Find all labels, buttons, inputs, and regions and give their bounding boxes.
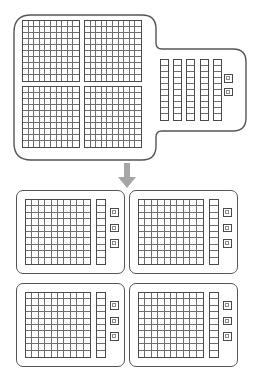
hundred-flat xyxy=(25,292,91,358)
rod-cell xyxy=(97,258,105,264)
rod-cell xyxy=(214,114,221,120)
one-unit xyxy=(224,74,233,83)
one-unit xyxy=(110,301,119,310)
flat-cell xyxy=(73,141,79,147)
ten-rod xyxy=(160,59,169,121)
group-box xyxy=(16,283,125,367)
flat-cell xyxy=(197,351,203,357)
hundred-flat xyxy=(138,199,204,265)
ten-rod xyxy=(209,199,219,265)
ten-rod xyxy=(209,292,219,358)
one-unit xyxy=(223,317,232,326)
group-ones xyxy=(110,301,119,341)
one-unit xyxy=(110,332,119,341)
total-amount-panel xyxy=(0,0,254,165)
rod-cell xyxy=(201,114,208,120)
ten-rod xyxy=(96,199,106,265)
ten-rod xyxy=(213,59,222,121)
one-unit xyxy=(223,208,232,217)
total-hundreds-group xyxy=(22,20,142,148)
hundred-flat xyxy=(22,86,80,148)
one-unit xyxy=(110,224,119,233)
group-ones xyxy=(110,208,119,248)
group-box xyxy=(129,190,238,274)
flat-cell xyxy=(84,351,90,357)
hundred-flat xyxy=(138,292,204,358)
ten-rod xyxy=(96,292,106,358)
total-ones-group xyxy=(224,74,233,96)
rod-cell xyxy=(174,114,181,120)
flat-cell xyxy=(135,75,141,81)
rod-cell xyxy=(161,114,168,120)
one-unit xyxy=(223,224,232,233)
total-tens-group xyxy=(160,59,222,121)
one-unit xyxy=(110,208,119,217)
hundred-flat xyxy=(25,199,91,265)
one-unit xyxy=(110,317,119,326)
flat-cell xyxy=(135,141,141,147)
hundred-flat xyxy=(22,20,80,82)
one-unit xyxy=(223,239,232,248)
hundred-flat xyxy=(84,20,142,82)
group-box xyxy=(16,190,125,274)
ten-rod xyxy=(173,59,182,121)
arrow-down-icon xyxy=(116,163,138,189)
ten-rod xyxy=(200,59,209,121)
one-unit xyxy=(224,88,233,97)
one-unit xyxy=(223,332,232,341)
flat-cell xyxy=(84,258,90,264)
rod-cell xyxy=(187,114,194,120)
flat-cell xyxy=(73,75,79,81)
one-unit xyxy=(223,301,232,310)
hundred-flat xyxy=(84,86,142,148)
ten-rod xyxy=(186,59,195,121)
flat-cell xyxy=(197,258,203,264)
rod-cell xyxy=(210,351,218,357)
one-unit xyxy=(110,239,119,248)
group-box xyxy=(129,283,238,367)
rod-cell xyxy=(210,258,218,264)
group-ones xyxy=(223,301,232,341)
equal-groups-container xyxy=(0,190,254,369)
rod-cell xyxy=(97,351,105,357)
group-ones xyxy=(223,208,232,248)
